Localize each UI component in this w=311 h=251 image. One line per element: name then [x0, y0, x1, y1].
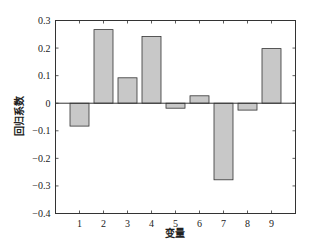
x-tick-label: 7: [221, 218, 226, 229]
bar-5: [166, 103, 185, 108]
y-tick-label: 0.1: [38, 70, 51, 81]
bar-7: [214, 103, 233, 180]
y-tick-label: −0.4: [32, 208, 50, 219]
bar-3: [118, 78, 137, 103]
y-tick-label: −0.3: [32, 180, 50, 191]
axes-frame: [56, 21, 296, 214]
y-tick-label: 0: [46, 98, 51, 109]
x-axis-title: 变量: [165, 227, 185, 239]
x-tick-label: 5: [173, 218, 178, 229]
y-tick-label: −0.2: [32, 153, 50, 164]
tick-marks: [56, 21, 296, 214]
x-tick-label: 3: [125, 218, 130, 229]
y-tick-labels: 0.30.20.10−0.1−0.2−0.3−0.4: [32, 15, 50, 219]
x-tick-label: 2: [101, 218, 106, 229]
x-tick-label: 1: [77, 218, 82, 229]
y-tick-label: −0.1: [32, 125, 50, 136]
y-tick-label: 0.3: [38, 15, 51, 26]
bars-group: [70, 30, 281, 180]
x-tick-label: 6: [197, 218, 202, 229]
bar-2: [94, 30, 113, 104]
y-axis-title: 回归系数: [13, 95, 25, 136]
bar-chart: 0.30.20.10−0.1−0.2−0.3−0.4 123456789 变量 …: [0, 0, 311, 251]
bar-1: [70, 103, 89, 126]
x-tick-labels: 123456789: [77, 218, 274, 229]
bar-4: [142, 37, 161, 104]
bar-9: [262, 49, 281, 104]
bar-6: [190, 96, 209, 103]
bar-8: [238, 103, 257, 110]
y-tick-label: 0.2: [38, 43, 51, 54]
x-tick-label: 9: [269, 218, 274, 229]
x-tick-label: 4: [149, 218, 154, 229]
x-tick-label: 8: [245, 218, 250, 229]
